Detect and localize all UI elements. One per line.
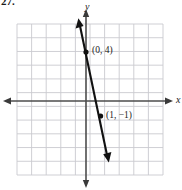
y-axis-arrow-bottom-icon	[83, 180, 89, 188]
graph-figure: 27. y x (0, 4) (1, −1)	[0, 0, 182, 190]
plotted-line	[76, 18, 112, 162]
grid-lines	[17, 24, 163, 175]
x-axis-arrow-right-icon	[165, 98, 173, 105]
line-segment	[80, 24, 108, 158]
y-axis-label: y	[85, 1, 89, 12]
data-point-0-4	[83, 49, 88, 54]
coordinate-plane-svg	[0, 0, 182, 190]
x-axis-arrow-left-icon	[3, 98, 11, 105]
data-point-1-neg1	[98, 113, 103, 118]
line-arrow-top-icon	[76, 18, 84, 28]
x-axis-label: x	[176, 94, 180, 105]
point-label-1-neg1: (1, −1)	[106, 110, 132, 120]
point-label-0-4: (0, 4)	[92, 45, 113, 55]
